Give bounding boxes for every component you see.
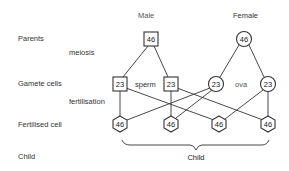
zygote-node-2: 46	[164, 116, 178, 132]
female-parent-node: 46	[237, 32, 252, 47]
diagram-graphics: 46 46 23 23 23 23 46 46	[0, 0, 289, 171]
svg-text:23: 23	[264, 80, 272, 89]
ovum-node-2: 23	[261, 77, 276, 92]
ovum-node-1: 23	[209, 77, 224, 92]
svg-text:23: 23	[167, 80, 175, 89]
connector-lines	[120, 45, 269, 150]
zygote-node-4: 46	[261, 116, 275, 132]
sperm-node-1: 23	[113, 77, 127, 91]
zygote-node-3: 46	[212, 116, 226, 132]
sperm-node-2: 23	[164, 77, 178, 91]
svg-text:46: 46	[167, 120, 175, 129]
svg-text:46: 46	[147, 35, 155, 44]
svg-text:46: 46	[240, 35, 248, 44]
svg-text:46: 46	[215, 120, 223, 129]
zygote-node-1: 46	[113, 116, 127, 132]
svg-text:46: 46	[264, 120, 272, 129]
male-parent-node: 46	[144, 32, 158, 46]
svg-text:23: 23	[212, 80, 220, 89]
child-brace-label: Child	[187, 153, 204, 162]
svg-text:23: 23	[116, 80, 124, 89]
svg-text:46: 46	[116, 120, 124, 129]
meiosis-fertilisation-diagram: Male Female Parents meiosis Gamete cells…	[0, 0, 289, 171]
